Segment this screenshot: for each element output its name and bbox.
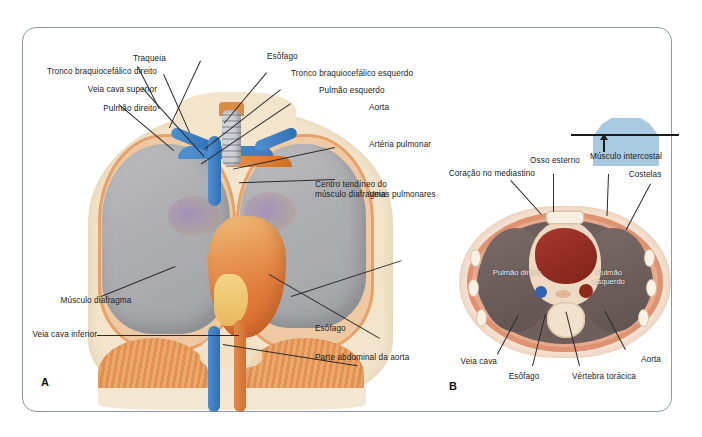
label-pulmao-esquerdo: Pulmão esquerdo — [319, 86, 385, 96]
panel-a-letter: A — [41, 376, 49, 388]
thoracic-vertebra-b — [547, 302, 585, 338]
label-esofago-bottom: Esôfago — [315, 324, 346, 334]
label-musculo-diafragma: Músculo diafragma — [55, 296, 137, 306]
inferior-vena-cava-shape — [208, 326, 220, 412]
rib-b-1 — [471, 250, 480, 266]
label-veia-cava-superior: Veia cava superior — [5, 85, 157, 95]
sternum-b — [547, 212, 583, 223]
label-arteria-pulmonar: Artéria pulmonar — [369, 140, 431, 150]
panel-a-illustration — [58, 88, 428, 413]
label-costelas: Costelas — [615, 170, 675, 180]
rib-b-3 — [477, 310, 486, 326]
descending-aorta-shape — [234, 320, 246, 412]
label-esofago-top: Esôfago — [267, 52, 298, 62]
rib-b-4 — [645, 250, 654, 266]
label-veia-cava-b: Veia cava — [423, 357, 497, 367]
section-plane-line-icon — [571, 134, 679, 136]
label-vertebra-toracica-b: Vértebra torácica — [559, 372, 649, 382]
rib-b-6 — [639, 310, 648, 326]
label-tronco-braquiocefalico-esquerdo: Tronco braquiocefálico esquerdo — [291, 69, 413, 79]
label-centro-tendineo: Centro tendíneo do músculo diafragma — [315, 180, 407, 200]
label-aorta: Aorta — [369, 103, 389, 113]
view-direction-arrowhead-icon — [600, 134, 608, 140]
label-parte-abdominal-aorta: Parte abdominal da aorta — [315, 353, 409, 363]
label-veia-cava-inferior: Veia cava inferior — [5, 330, 97, 340]
label-tronco-braquiocefalico-direito: Tronco braquiocefálico direito — [5, 67, 157, 77]
superior-vena-cava-shape — [208, 136, 221, 206]
figure-frame: Traqueia Tronco braquiocefálico direito … — [22, 27, 672, 412]
rib-b-2 — [469, 280, 478, 296]
rib-b-5 — [647, 280, 656, 296]
label-coracao-no-mediastino: Coração no mediastino — [405, 169, 535, 179]
label-musculo-intercostal: Músculo intercostal — [581, 152, 671, 162]
label-pulmao-direito: Pulmão direito — [5, 104, 157, 114]
panel-b-illustration: Pulmão direito Pulmão esquerdo — [455, 206, 675, 366]
leader-veia-cava-inferior — [97, 335, 239, 336]
esophagus-b — [555, 290, 571, 298]
abdomen-region — [98, 388, 366, 410]
label-pulmao-esquerdo-b: Pulmão esquerdo — [581, 268, 637, 286]
label-aorta-b: Aorta — [627, 355, 675, 365]
label-esofago-b: Esôfago — [495, 372, 553, 382]
panel-b-letter: B — [449, 380, 457, 392]
vena-cava-b — [535, 286, 547, 298]
label-traqueia: Traqueia — [133, 54, 166, 64]
label-pulmao-direito-b: Pulmão direito — [489, 268, 545, 277]
leader-osso-esterno — [553, 174, 554, 212]
